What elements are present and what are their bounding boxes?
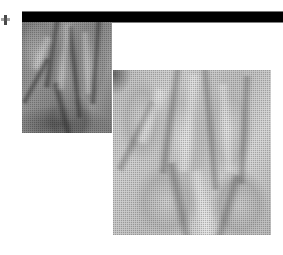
- corner-shadow: [113, 70, 141, 104]
- binding-mark-icon: [4, 15, 7, 25]
- shadow-band: [22, 101, 112, 133]
- page-canvas: [0, 0, 283, 255]
- figure-hand-light: [113, 70, 271, 235]
- black-rule: [22, 12, 283, 22]
- figure-hand-dark: [22, 22, 112, 133]
